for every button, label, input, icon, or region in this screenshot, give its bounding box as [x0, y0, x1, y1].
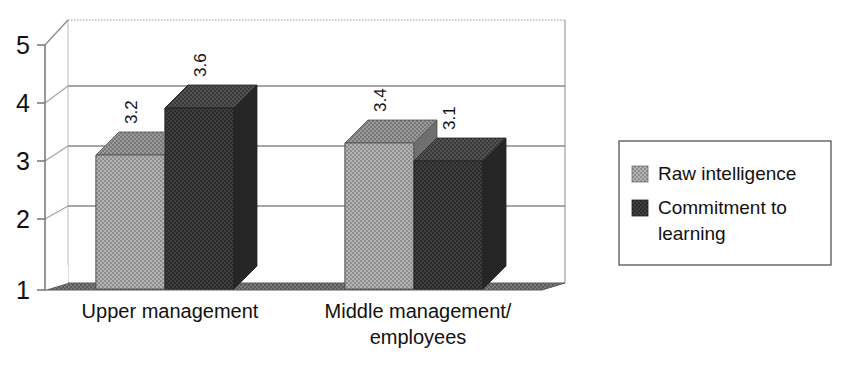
axis-depth-lines — [45, 20, 68, 290]
legend-swatch-raw-intelligence — [632, 166, 648, 182]
bar-chart-3d: 5 4 3 2 1 — [0, 0, 849, 369]
y-tick-label-5: 5 — [16, 31, 30, 59]
bar-middle-management-commitment-to-learning[interactable] — [414, 138, 506, 289]
y-tick-label-1: 1 — [16, 276, 30, 304]
x-axis-category-labels: Upper management Middle management/ empl… — [82, 300, 512, 348]
y-tick-label-2: 2 — [16, 205, 30, 233]
y-tick-label-4: 4 — [16, 89, 30, 117]
legend: Raw intelligence Commitment to learning — [619, 141, 831, 265]
legend-label-raw-intelligence: Raw intelligence — [658, 163, 796, 184]
bar-upper-management-commitment-to-learning[interactable] — [165, 85, 257, 289]
category-label-upper-management: Upper management — [82, 300, 259, 322]
legend-label-commitment-to-learning-line1: Commitment to — [658, 197, 787, 218]
data-label-bar-3: 3.4 — [371, 88, 390, 112]
data-label-bar-4: 3.1 — [440, 106, 459, 130]
y-tick-labels: 5 4 3 2 1 — [16, 31, 30, 304]
y-axis — [37, 45, 45, 290]
category-label-middle-management-line1: Middle management/ — [325, 300, 512, 322]
data-label-bar-2: 3.6 — [191, 53, 210, 77]
y-tick-label-3: 3 — [16, 147, 30, 175]
chart-figure: 5 4 3 2 1 — [0, 0, 849, 369]
category-label-middle-management-line2: employees — [370, 326, 467, 348]
data-label-bar-1: 3.2 — [122, 100, 141, 124]
legend-swatch-commitment-to-learning — [632, 200, 648, 216]
legend-label-commitment-to-learning-line2: learning — [658, 223, 726, 244]
